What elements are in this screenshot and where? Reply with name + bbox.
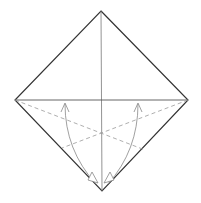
valley-fold-left [15, 100, 145, 150]
arrowhead-right-bottom [104, 172, 114, 183]
arrowhead-left-bottom [88, 172, 98, 183]
vertical-crease [101, 11, 102, 191]
origami-diagram [0, 0, 201, 203]
fold-arrow-right [108, 104, 138, 184]
valley-fold-right [62, 100, 188, 148]
fold-arrow-left [65, 104, 96, 184]
